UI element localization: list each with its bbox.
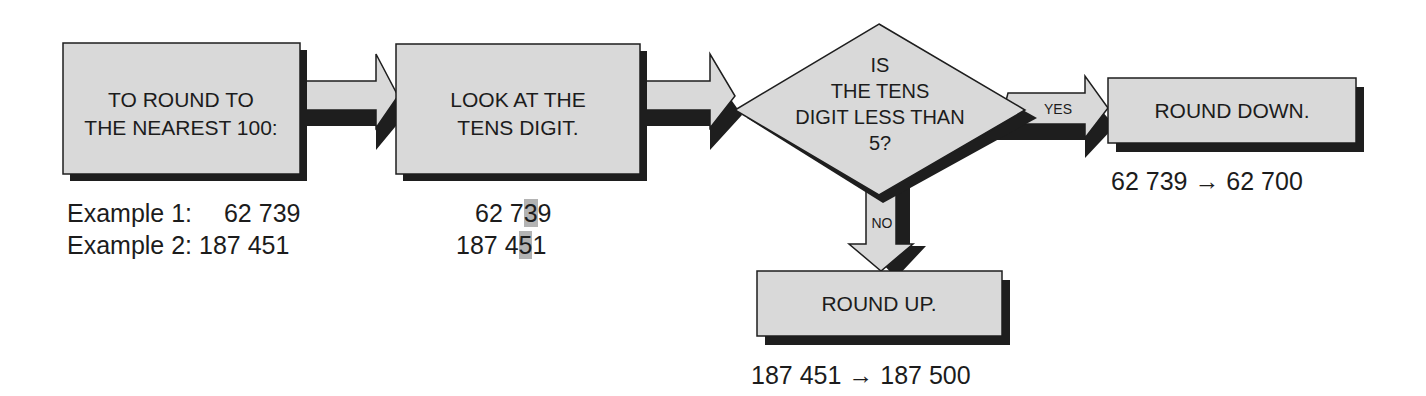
start-box-line1: TO ROUND TO bbox=[108, 88, 254, 111]
start-box: TO ROUND TO THE NEAREST 100: bbox=[63, 43, 307, 181]
decision-line1: IS bbox=[871, 54, 890, 76]
start-box-line2: THE NEAREST 100: bbox=[84, 116, 277, 139]
round-down-label: ROUND DOWN. bbox=[1154, 99, 1309, 122]
example-2-suffix: 1 bbox=[532, 231, 546, 259]
example-1-value: 62 739 bbox=[224, 199, 300, 227]
arrow-start-to-step bbox=[300, 54, 405, 150]
round-up-box: ROUND UP. bbox=[757, 271, 1010, 345]
round-down-result: 62 739 → 62 700 bbox=[1111, 166, 1303, 196]
example-2-prefix: 187 4 bbox=[456, 231, 519, 259]
example-2-tens-highlight: 5 bbox=[519, 231, 533, 259]
example-2-label: Example 2: bbox=[67, 231, 192, 259]
step-box: LOOK AT THE TENS DIGIT. bbox=[396, 44, 647, 181]
step-box-line2: TENS DIGIT. bbox=[457, 116, 578, 139]
example-1-tens-highlight: 3 bbox=[524, 199, 538, 227]
arrow-step-to-decision bbox=[640, 54, 742, 150]
decision-line2: THE TENS bbox=[831, 80, 930, 102]
round-up-label: ROUND UP. bbox=[821, 292, 936, 315]
decision-diamond: IS THE TENS DIGIT LESS THAN 5? bbox=[735, 24, 1037, 203]
decision-line4: 5? bbox=[869, 132, 891, 154]
step-box-line1: LOOK AT THE bbox=[450, 88, 585, 111]
example-2-row: Example 2: 187 451 bbox=[67, 230, 289, 260]
no-label: NO bbox=[872, 215, 893, 231]
round-down-box: ROUND DOWN. bbox=[1108, 78, 1364, 152]
example-1-row: Example 1: 62 739 bbox=[67, 198, 300, 228]
example-1-label: Example 1: bbox=[67, 199, 192, 227]
example-1-tens-digit-row: 62 739 bbox=[475, 198, 551, 228]
example-2-value: 187 451 bbox=[199, 231, 289, 259]
example-1-prefix: 62 7 bbox=[475, 199, 524, 227]
example-2-tens-digit-row: 187 451 bbox=[456, 230, 546, 260]
yes-label: YES bbox=[1044, 101, 1072, 117]
round-up-result: 187 451 → 187 500 bbox=[751, 360, 971, 390]
example-1-suffix: 9 bbox=[538, 199, 552, 227]
decision-line3: DIGIT LESS THAN bbox=[795, 106, 964, 128]
